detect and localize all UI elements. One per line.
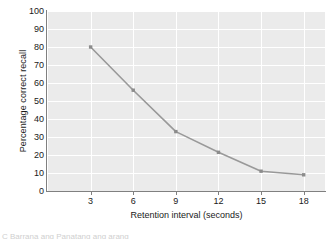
data-point-marker [259,170,262,173]
y-axis-line [46,10,47,192]
x-tick-label: 6 [118,196,148,206]
x-tick-mark [176,192,177,195]
y-tick-label: 30 [18,133,44,142]
data-point-marker [217,151,220,154]
y-tick-label: 100 [18,7,44,16]
y-axis-tick-labels: 0102030405060708090100 [18,6,44,196]
y-tick-label: 60 [18,79,44,88]
x-tick-label: 15 [246,196,276,206]
x-tick-label: 18 [289,196,319,206]
y-tick-label: 10 [18,169,44,178]
y-tick-label: 80 [18,43,44,52]
x-tick-label: 9 [161,196,191,206]
x-axis-tick-labels: 369121518 [0,196,334,210]
y-tick-label: 50 [18,97,44,106]
x-tick-mark [133,192,134,195]
x-tick-label: 12 [203,196,233,206]
data-point-marker [174,130,177,133]
page-caption-fragment: C Barrana ang Panatang ang arang [2,232,129,239]
y-tick-label: 40 [18,115,44,124]
x-tick-mark [91,192,92,195]
data-series-layer [48,11,325,191]
series-line [91,47,304,175]
x-tick-mark [218,192,219,195]
x-axis-title: Retention interval (seconds) [48,210,325,220]
y-tick-label: 90 [18,25,44,34]
y-tick-label: 20 [18,151,44,160]
data-point-marker [132,89,135,92]
data-point-marker [89,45,92,48]
x-tick-mark [261,192,262,195]
x-axis-line [46,191,326,192]
y-tick-label: 70 [18,61,44,70]
line-chart-figure: Percentage correct recall 01020304050607… [0,0,334,239]
y-tick-label: 0 [18,187,44,196]
data-point-marker [302,173,305,176]
x-tick-label: 3 [76,196,106,206]
x-tick-mark [304,192,305,195]
